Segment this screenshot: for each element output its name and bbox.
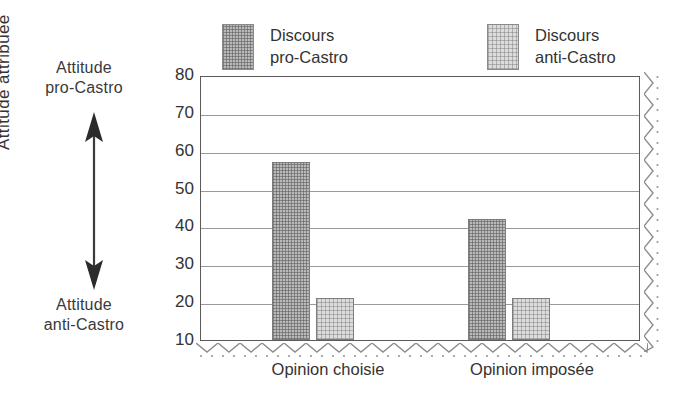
bar-1-pro-castro	[272, 162, 310, 340]
y-tick-label-40: 40	[160, 216, 194, 236]
right-torn-edge-decoration	[644, 72, 662, 352]
gridline-40	[201, 228, 639, 229]
x-axis-label-opinion-imposee: Opinion imposée	[432, 360, 632, 379]
chart-figure: Attitude pro-Castro Attitude anti-Castro…	[0, 0, 689, 409]
x-axis-label-opinion-choisie: Opinion choisie	[228, 360, 428, 379]
bar-1-anti-castro	[316, 298, 354, 340]
legend-swatch-pro-castro	[222, 24, 254, 70]
legend-item-discours-pro-castro: Discours pro-Castro	[222, 24, 348, 70]
y-tick-label-70: 70	[160, 103, 194, 123]
gridline-50	[201, 191, 639, 192]
double-headed-vertical-arrow-icon	[68, 112, 120, 290]
y-tick-label-10: 10	[160, 330, 194, 350]
legend-swatch-anti-castro	[487, 24, 519, 70]
bar-2-anti-castro	[512, 298, 550, 340]
legend-label-pro-castro: Discours pro-Castro	[270, 24, 348, 69]
attitude-anti-castro-line2: anti-Castro	[14, 315, 154, 335]
gridline-30	[201, 266, 639, 267]
legend-item-discours-anti-castro: Discours anti-Castro	[487, 24, 616, 70]
y-axis-title: Attitude attribuée	[0, 0, 14, 150]
y-tick-label-30: 30	[160, 254, 194, 274]
y-tick-label-50: 50	[160, 179, 194, 199]
gridline-20	[201, 304, 639, 305]
attitude-pro-castro-line2: pro-Castro	[14, 78, 154, 98]
legend-label-pro-castro-line1: Discours	[270, 25, 348, 47]
attitude-anti-castro-line1: Attitude	[14, 295, 154, 315]
bottom-torn-edge-decoration	[196, 343, 648, 359]
attitude-anti-castro-annotation: Attitude anti-Castro	[14, 295, 154, 336]
bar-2-pro-castro	[468, 219, 506, 340]
attitude-pro-castro-annotation: Attitude pro-Castro	[14, 58, 154, 99]
y-tick-label-80: 80	[160, 65, 194, 85]
gridline-70	[201, 115, 639, 116]
y-tick-label-20: 20	[160, 292, 194, 312]
legend-label-anti-castro-line2: anti-Castro	[535, 47, 616, 69]
plot-area	[200, 76, 640, 341]
attitude-pro-castro-line1: Attitude	[14, 58, 154, 78]
legend-label-anti-castro-line1: Discours	[535, 25, 616, 47]
legend-label-anti-castro: Discours anti-Castro	[535, 24, 616, 69]
y-tick-label-60: 60	[160, 141, 194, 161]
gridline-60	[201, 153, 639, 154]
legend-label-pro-castro-line2: pro-Castro	[270, 47, 348, 69]
